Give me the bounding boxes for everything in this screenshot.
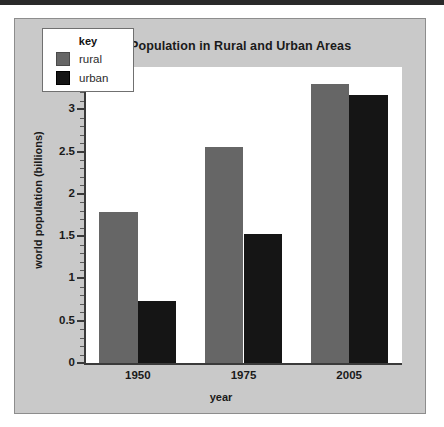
y-tick-minor [80, 92, 84, 93]
y-tick-minor [80, 160, 84, 161]
y-tick-minor [80, 304, 84, 305]
y-tick-minor [80, 245, 84, 246]
y-tick-minor [80, 338, 84, 339]
y-tick-minor [80, 253, 84, 254]
legend-item-rural: rural [56, 52, 133, 66]
y-tick-major [77, 362, 84, 364]
y-tick-minor [80, 202, 84, 203]
x-axis-line [84, 363, 402, 365]
x-tick-label: 1975 [199, 369, 289, 381]
y-tick-minor [80, 287, 84, 288]
bar-2005-rural [311, 84, 350, 363]
y-tick-minor [80, 262, 84, 263]
y-tick-minor [80, 228, 84, 229]
bar-1975-rural [205, 147, 244, 363]
y-tick-minor [80, 177, 84, 178]
y-tick-minor [80, 185, 84, 186]
y-tick-minor [80, 126, 84, 127]
y-tick-minor [80, 329, 84, 330]
legend-label-urban: urban [79, 72, 108, 84]
legend-title: key [43, 35, 133, 47]
y-tick-label: 0.5 [31, 314, 75, 326]
y-tick-minor [80, 355, 84, 356]
y-tick-major [77, 235, 84, 237]
y-tick-major [77, 193, 84, 195]
y-tick-major [77, 151, 84, 153]
bar-1950-urban [138, 301, 177, 363]
y-tick-minor [80, 295, 84, 296]
legend-item-urban: urban [56, 71, 133, 85]
bar-2005-urban [349, 95, 388, 363]
chart-figure: World Population in Rural and Urban Area… [14, 18, 426, 414]
y-tick-minor [80, 168, 84, 169]
y-tick-minor [80, 346, 84, 347]
y-tick-minor [80, 135, 84, 136]
x-tick-label: 2005 [304, 369, 394, 381]
y-tick-minor [80, 143, 84, 144]
legend-box: key rural urban [42, 28, 134, 92]
bar-1975-urban [244, 234, 283, 363]
y-tick-major [77, 108, 84, 110]
y-tick-minor [80, 270, 84, 271]
y-tick-major [77, 320, 84, 322]
top-edge-strip [0, 0, 444, 5]
legend-swatch-urban-icon [56, 71, 70, 85]
y-tick-minor [80, 312, 84, 313]
bars-layer [85, 67, 402, 363]
bar-1950-rural [99, 212, 138, 363]
y-tick-minor [80, 211, 84, 212]
legend-label-rural: rural [79, 53, 102, 65]
x-tick-label: 1950 [93, 369, 183, 381]
y-tick-label: 0 [31, 356, 75, 368]
y-axis-title: world population (billions) [32, 105, 44, 295]
y-tick-major [77, 277, 84, 279]
y-tick-minor [80, 219, 84, 220]
legend-swatch-rural-icon [56, 52, 70, 66]
y-tick-minor [80, 118, 84, 119]
x-axis-title: year [15, 391, 427, 403]
y-tick-minor [80, 101, 84, 102]
